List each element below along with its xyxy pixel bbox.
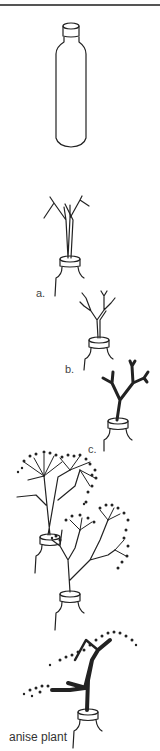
empty-bottle-icon — [56, 23, 86, 147]
label-stage-c: c. — [88, 443, 97, 455]
flowering-stage-1 — [17, 451, 98, 574]
flowering-stage-2 — [51, 504, 130, 631]
label-anise-plant: anise plant — [9, 730, 67, 744]
stage-c-sprig — [103, 361, 148, 420]
illustration-canvas — [0, 0, 160, 751]
stage-c-bottle — [104, 418, 132, 451]
stage-a-sprig — [44, 196, 89, 296]
label-stage-b: b. — [65, 363, 74, 375]
stage-b-sprig — [80, 291, 115, 370]
label-stage-a: a. — [36, 287, 45, 299]
